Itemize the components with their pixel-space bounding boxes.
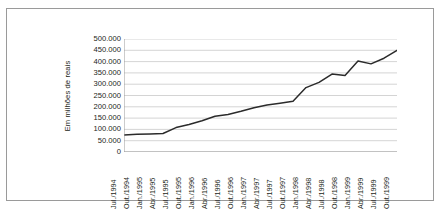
x-tick-label: Jul./1996 [212,155,224,209]
x-tick-label: Out./1996 [225,155,237,209]
x-tick-label: Abr./1998 [303,155,315,209]
plot-area [124,39,397,152]
y-axis-tick-labels: 500.000450.000400.000350.000300.000250.0… [73,33,121,159]
x-tick-label: Jul./1995 [160,155,172,209]
x-tick-label: Jan./1998 [290,155,302,209]
y-tick-label: 250.000 [73,92,121,100]
y-tick-label: 300.000 [73,80,121,88]
y-tick-label: 400.000 [73,58,121,66]
x-tick-label: Jan./1999 [342,155,354,209]
x-tick-label: Out./1998 [329,155,341,209]
x-tick-label: Jul./1998 [316,155,328,209]
gridlines [124,39,397,152]
y-tick-label: 350.000 [73,69,121,77]
y-tick-label: 50.000 [73,137,121,145]
x-tick-label: Jul./1997 [264,155,276,209]
y-tick-label: 200.000 [73,103,121,111]
y-tick-label: 500.000 [73,35,121,43]
x-tick-label: Jan./1996 [186,155,198,209]
x-tick-label: Abr./1995 [147,155,159,209]
y-axis-title-label: Em milhões de reais [63,61,72,132]
x-tick-label: Jul./1999 [368,155,380,209]
x-tick-label: Out./1995 [173,155,185,209]
x-tick-label: Out./1997 [277,155,289,209]
x-tick-label: Abr./1997 [251,155,263,209]
x-tick-label: Out./1999 [381,155,393,209]
x-tick-label: Abr./1999 [355,155,367,209]
data-series-line [124,50,397,135]
y-tick-label: 150.000 [73,114,121,122]
x-tick-label: Abr./1996 [199,155,211,209]
x-tick-label: Jan./1995 [134,155,146,209]
x-tick-label: Jan./1997 [238,155,250,209]
y-tick-label: 100.000 [73,125,121,133]
x-tick-label: Out./1994 [121,155,133,209]
line-chart-svg [124,39,397,152]
chart-frame: Em milhões de reais 500.000450.000400.00… [6,8,434,201]
x-axis-tick-labels: Jul./1994Out./1994Jan./1995Abr./1995Jul.… [124,155,397,209]
chart-figure: Em milhões de reais 500.000450.000400.00… [0,0,441,209]
y-tick-label: 450.000 [73,46,121,54]
x-tick-label: Jul./1994 [108,155,120,209]
